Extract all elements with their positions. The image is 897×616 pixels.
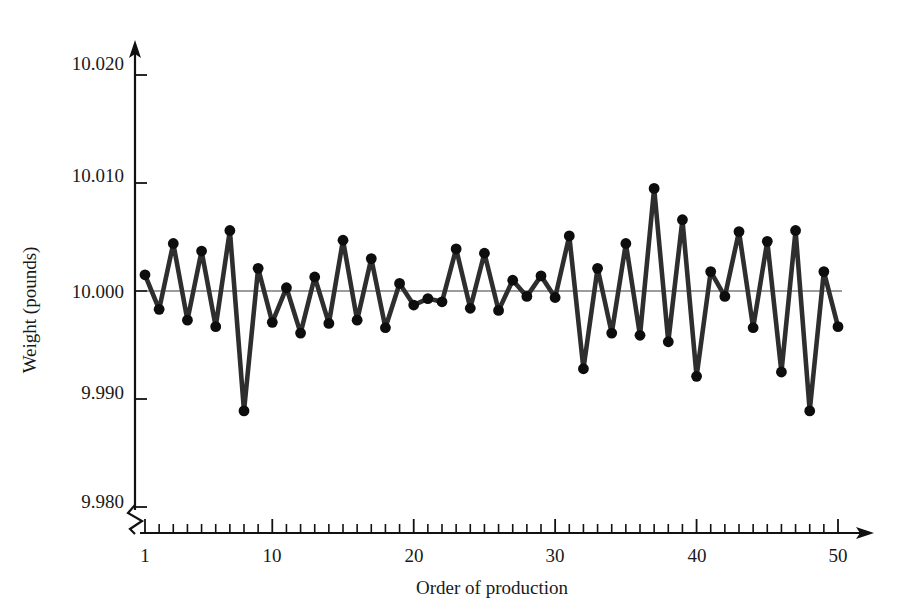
data-point [677, 214, 688, 225]
data-point [437, 296, 448, 307]
data-point [493, 305, 504, 316]
data-point [479, 248, 490, 259]
data-point [309, 272, 320, 283]
data-point [295, 328, 306, 339]
data-point [606, 328, 617, 339]
data-point [140, 269, 151, 280]
data-point [352, 315, 363, 326]
y-axis-title: Weight (pounds) [19, 247, 41, 374]
data-point [154, 304, 165, 315]
data-point [649, 183, 660, 194]
data-point [338, 235, 349, 246]
control-chart: Weight (pounds) Order of production 10.0… [0, 0, 897, 616]
y-tick-label-9980: 9.980 [81, 491, 124, 512]
data-point [253, 263, 264, 274]
data-point [380, 322, 391, 333]
data-point [323, 318, 334, 329]
data-point [210, 321, 221, 332]
data-point [748, 322, 759, 333]
data-point [168, 238, 179, 249]
x-tick-label-10: 10 [263, 545, 282, 566]
x-tick-label-30: 30 [546, 545, 565, 566]
data-point [734, 226, 745, 237]
data-point [818, 266, 829, 277]
x-tick-label-40: 40 [688, 545, 707, 566]
data-point [422, 293, 433, 304]
y-tick-label-9990: 9.990 [81, 382, 124, 403]
data-point [719, 291, 730, 302]
data-point [451, 243, 462, 254]
data-point [267, 317, 278, 328]
data-point [281, 282, 292, 293]
data-point [833, 321, 844, 332]
data-point [564, 231, 575, 242]
y-tick-label-10010: 10.010 [72, 165, 124, 186]
data-point [507, 275, 518, 286]
data-point [691, 371, 702, 382]
data-point [592, 263, 603, 274]
data-point [663, 336, 674, 347]
x-tick-label-20: 20 [405, 545, 424, 566]
data-point [182, 315, 193, 326]
data-point [224, 225, 235, 236]
data-point [776, 367, 787, 378]
data-point [536, 270, 547, 281]
data-point [521, 291, 532, 302]
data-point [239, 405, 250, 416]
x-tick-label-1: 1 [140, 545, 150, 566]
data-point [550, 292, 561, 303]
y-tick-label-10020: 10.020 [72, 53, 124, 74]
data-point [578, 363, 589, 374]
data-point [620, 238, 631, 249]
data-point [408, 300, 419, 311]
data-point [394, 278, 405, 289]
data-point [366, 253, 377, 264]
data-point [790, 225, 801, 236]
data-point [705, 266, 716, 277]
data-point [804, 405, 815, 416]
x-tick-label-50: 50 [829, 545, 848, 566]
x-axis-title: Order of production [416, 577, 568, 598]
data-point [196, 246, 207, 257]
y-tick-label-10000: 10.000 [72, 281, 124, 302]
data-point [635, 330, 646, 341]
data-point [465, 303, 476, 314]
data-point [762, 236, 773, 247]
